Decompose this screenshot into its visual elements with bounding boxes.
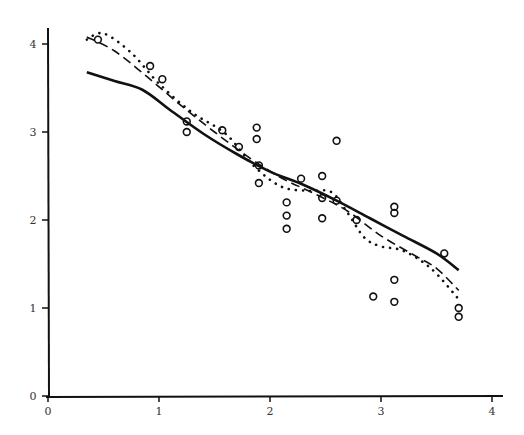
data-point (253, 136, 260, 143)
data-point (455, 313, 462, 320)
x-tick-label: 3 (378, 405, 385, 418)
chart: 01234 01234 (0, 0, 524, 435)
data-point (391, 276, 398, 283)
x-tick-label: 0 (45, 405, 52, 418)
axes (46, 28, 503, 398)
dotted-smooth-line (87, 33, 459, 299)
y-tick-label: 3 (30, 126, 37, 139)
x-ticks: 01234 (45, 396, 496, 418)
x-axis (46, 396, 503, 397)
data-point (147, 63, 154, 70)
data-point (283, 225, 290, 232)
smooth-curves (87, 33, 459, 299)
data-point (370, 293, 377, 300)
data-point (391, 298, 398, 305)
y-ticks: 01234 (30, 38, 50, 403)
data-point (298, 175, 305, 182)
x-tick-label: 1 (156, 405, 163, 418)
data-point (95, 36, 102, 43)
data-point (159, 76, 166, 83)
data-point (319, 215, 326, 222)
data-point (455, 305, 462, 312)
y-tick-label: 0 (30, 390, 37, 403)
x-tick-label: 2 (267, 405, 274, 418)
data-point (283, 212, 290, 219)
data-point (283, 199, 290, 206)
y-tick-label: 1 (30, 302, 37, 315)
data-point (319, 173, 326, 180)
dashed-smooth-line (87, 37, 459, 290)
data-point (256, 180, 263, 187)
data-point (441, 250, 448, 257)
data-point (183, 129, 190, 136)
data-point (253, 124, 260, 131)
x-tick-label: 4 (489, 405, 496, 418)
y-tick-label: 4 (30, 38, 37, 51)
solid-smooth-line (87, 72, 459, 270)
y-axis (48, 28, 49, 398)
data-point (333, 137, 340, 144)
y-tick-label: 2 (30, 214, 37, 227)
